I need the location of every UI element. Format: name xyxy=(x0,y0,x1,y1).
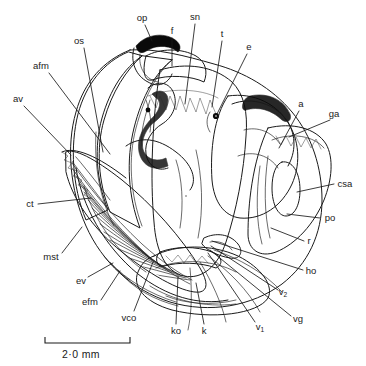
label-vco: vco xyxy=(122,312,137,323)
foot xyxy=(144,50,206,82)
label-ho: ho xyxy=(306,265,317,276)
leader-line-vg xyxy=(210,250,291,316)
label-v2-subscript: 2 xyxy=(284,290,288,297)
label-ko: ko xyxy=(171,325,181,336)
scale-bar-label: 2·0 mm xyxy=(62,348,100,360)
label-ev: ev xyxy=(76,275,86,286)
label-vg: vg xyxy=(293,313,303,324)
osphradium-coil xyxy=(126,83,194,190)
right-lobe xyxy=(212,95,298,218)
label-sn: sn xyxy=(190,11,200,22)
leader-line-sn xyxy=(185,24,195,104)
label-e: e xyxy=(246,41,251,52)
label-csa: csa xyxy=(338,178,354,189)
eye-spot-left xyxy=(146,108,151,113)
leader-line-ev xyxy=(88,263,113,277)
label-texts: opfsnteosafmavagacsaporhov2vgv1kkovcoefm… xyxy=(13,11,353,336)
operculum xyxy=(133,35,180,85)
label-efm: efm xyxy=(82,296,98,307)
scale-bar-line xyxy=(45,337,130,343)
label-k: k xyxy=(202,325,207,336)
label-v2: v2 xyxy=(279,286,288,298)
label-t: t xyxy=(221,28,224,39)
csa-structure xyxy=(272,162,300,216)
leader-line-efm xyxy=(101,271,120,300)
label-afm: afm xyxy=(33,60,49,71)
leader-line-av xyxy=(24,106,71,155)
leader-line-mst xyxy=(62,227,82,253)
label-op: op xyxy=(137,12,148,23)
leader-line-v2 xyxy=(211,246,278,290)
label-v1-subscript: 1 xyxy=(261,325,265,332)
anatomical-figure: opfsnteosafmavagacsaporhov2vgv1kkovcoefm… xyxy=(0,0,366,366)
pallial-contours xyxy=(150,250,282,330)
leader-line-ct xyxy=(38,198,91,204)
label-v1: v1 xyxy=(256,321,265,333)
label-ct: ct xyxy=(26,198,34,209)
leader-line-po xyxy=(287,214,320,218)
label-av: av xyxy=(13,93,23,104)
leader-line-r xyxy=(271,228,304,241)
figure-canvas: opfsnteosafmavagacsaporhov2vgv1kkovcoefm… xyxy=(0,0,366,366)
left-lower-contours xyxy=(104,256,178,306)
label-ga: ga xyxy=(329,108,340,119)
leader-line-ga xyxy=(289,120,330,137)
label-os: os xyxy=(74,35,84,46)
label-f: f xyxy=(171,25,174,36)
label-po: po xyxy=(325,212,336,223)
flap-tooth-row xyxy=(276,136,321,149)
leader-line-v1 xyxy=(208,253,255,322)
label-a: a xyxy=(298,98,304,109)
leader-line-os xyxy=(84,48,103,152)
body-outline xyxy=(71,50,322,308)
label-r: r xyxy=(307,235,310,246)
scale-bar: 2·0 mm xyxy=(45,337,130,360)
label-mst: mst xyxy=(43,251,59,262)
